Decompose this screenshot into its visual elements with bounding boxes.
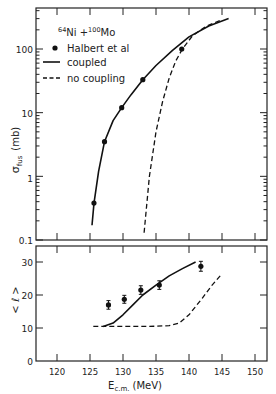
xtick-130: 130	[115, 367, 131, 377]
ytick-bottom-10: 10	[22, 324, 34, 334]
legend-label-halbert: Halbert et al	[67, 43, 129, 54]
legend-label-nocoupling: no coupling	[67, 73, 125, 84]
y-axis-label-top: σfus(mb)	[9, 127, 24, 174]
xtick-140: 140	[181, 367, 197, 377]
x-axis-label: Ec.m.(MeV)	[108, 380, 162, 393]
xtick-125: 125	[82, 367, 98, 377]
ytick-top-0.1: 0.1	[19, 236, 33, 246]
ytick-bottom-20: 20	[22, 291, 34, 301]
reaction-label: 64Ni +100Mo	[58, 26, 115, 38]
ytick-top-10: 10	[22, 109, 34, 119]
legend-label-coupled: coupled	[67, 57, 107, 68]
xtick-150: 150	[247, 367, 263, 377]
xtick-120: 120	[49, 367, 65, 377]
fusion-cross-section-chart: 100 10 1 0.1 30 20 10 0 120 125 130 135 …	[0, 0, 276, 394]
ytick-top-1: 1	[27, 174, 33, 184]
ytick-top-100: 100	[16, 45, 33, 55]
ytick-bottom-0: 0	[27, 357, 33, 367]
y-axis-label-bottom: < ℓ >	[10, 286, 21, 313]
data-series	[91, 19, 228, 327]
ytick-bottom-30: 30	[22, 258, 34, 268]
xtick-135: 135	[148, 367, 164, 377]
bottom-panel-frame	[36, 246, 267, 361]
legend-marker-icon	[52, 45, 57, 50]
xtick-145: 145	[214, 367, 230, 377]
